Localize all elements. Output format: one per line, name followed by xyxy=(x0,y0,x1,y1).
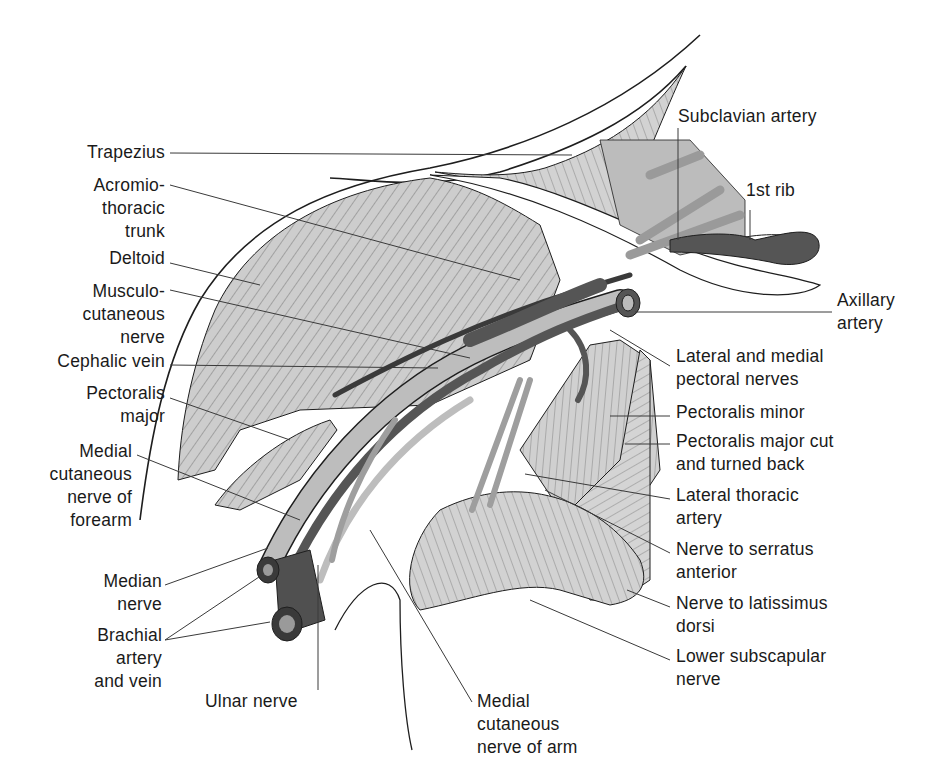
label-trapezius: Trapezius xyxy=(0,141,165,164)
label-nerve-to-latissimus-dorsi: Nerve to latissimus dorsi xyxy=(676,592,828,638)
axillary-artery-cut-end xyxy=(616,289,640,317)
label-first-rib: 1st rib xyxy=(746,179,795,202)
label-musculocutaneous-nerve: Musculo- cutaneous nerve xyxy=(0,280,165,349)
label-median-nerve: Median nerve xyxy=(0,570,162,616)
label-lateral-thoracic-artery: Lateral thoracic artery xyxy=(676,484,799,530)
label-axillary-artery: Axillary artery xyxy=(837,289,895,335)
label-subclavian-artery: Subclavian artery xyxy=(678,105,817,128)
label-nerve-to-serratus-anterior: Nerve to serratus anterior xyxy=(676,538,814,584)
label-medial-cutaneous-nerve-arm: Medial cutaneous nerve of arm xyxy=(477,690,578,759)
label-lower-subscapular-nerve: Lower subscapular nerve xyxy=(676,645,826,691)
label-medial-cutaneous-nerve-forearm: Medial cutaneous nerve of forearm xyxy=(0,440,132,532)
thoracic-nerves xyxy=(472,380,530,510)
label-ulnar-nerve: Ulnar nerve xyxy=(205,690,298,713)
label-pectoralis-major: Pectoralis major xyxy=(0,382,165,428)
label-pectoralis-minor: Pectoralis minor xyxy=(676,401,805,424)
label-deltoid: Deltoid xyxy=(0,247,165,270)
label-cephalic-vein: Cephalic vein xyxy=(0,350,165,373)
brachial-vessels-cut-ends xyxy=(257,550,325,641)
label-brachial-artery-vein: Brachial artery and vein xyxy=(0,624,162,693)
label-pectoralis-major-cut: Pectoralis major cut and turned back xyxy=(676,430,834,476)
chest-wall-contour xyxy=(335,583,412,750)
label-lateral-medial-pectoral-nerves: Lateral and medial pectoral nerves xyxy=(676,345,824,391)
label-acromiothoracic-trunk: Acromio- thoracic trunk xyxy=(0,174,165,243)
